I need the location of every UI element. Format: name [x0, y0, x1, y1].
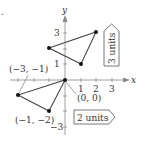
y-tick-1: 1 [54, 59, 60, 69]
point-neg1-neg2 [47, 109, 51, 113]
original-triangle [18, 80, 65, 111]
point-origin [63, 78, 67, 82]
x-axis-label: x [131, 75, 136, 85]
y-tick-3: 3 [54, 28, 60, 38]
vertical-translation-label: 3 units [107, 32, 117, 64]
label-point-origin: (0, 0) [77, 93, 101, 103]
x-axis [10, 78, 127, 82]
label-point-a: (−3, −1) [9, 64, 48, 74]
horizontal-translation-label: 2 units [77, 113, 109, 123]
x-axis-arrow-icon [123, 78, 130, 83]
y-axis [63, 18, 67, 135]
problem-marker: . [1, 7, 4, 17]
y-axis-label: y [61, 5, 68, 15]
leader-line-a [19, 75, 28, 93]
point-1-1 [79, 62, 83, 66]
point-2-3 [94, 30, 98, 34]
leader-line-o [66, 82, 76, 94]
point-neg1-2 [47, 46, 51, 50]
x-tick-3: 3 [109, 84, 115, 94]
label-point-b: (−1, −2) [15, 115, 54, 125]
point-neg3-neg1 [16, 93, 20, 97]
translation-diagram: . x y 1 2 3 3 1 −3 (−3, −1) (−1, − [0, 0, 144, 141]
y-axis-arrow-icon [63, 15, 68, 22]
